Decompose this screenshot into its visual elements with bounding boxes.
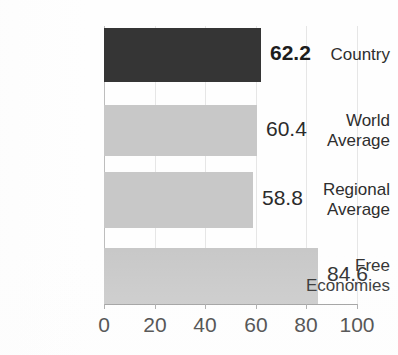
category-label-line: Regional [294, 180, 390, 200]
category-label-line: Average [294, 131, 390, 151]
bar-regional-average [104, 172, 253, 228]
x-tickmark [306, 304, 307, 309]
x-tickmark [256, 304, 257, 309]
category-label-regional-average: RegionalAverage [294, 180, 398, 220]
category-label-world-average: WorldAverage [294, 111, 398, 151]
x-tickmark [104, 304, 105, 309]
bar-world-average [104, 105, 257, 156]
x-axis-line [104, 304, 358, 305]
category-label-line: World [294, 111, 390, 131]
value-label-regional-average: 58.8 [262, 186, 303, 210]
x-tickmark [205, 304, 206, 309]
category-label-line: Average [294, 200, 390, 220]
chart-title: Economic Freedom Score [0, 0, 398, 4]
bar-free-economies [104, 248, 318, 304]
x-tickmark [357, 304, 358, 309]
value-label-world-average: 60.4 [266, 117, 307, 141]
bar-country [104, 28, 261, 82]
bar-chart-figure: Economic Freedom Score 020406080100 Coun… [0, 0, 398, 355]
value-label-free-economies: 84.6 [327, 262, 368, 286]
x-tick-label: 100 [327, 312, 387, 338]
value-label-country: 62.2 [270, 41, 311, 65]
x-tickmark [155, 304, 156, 309]
